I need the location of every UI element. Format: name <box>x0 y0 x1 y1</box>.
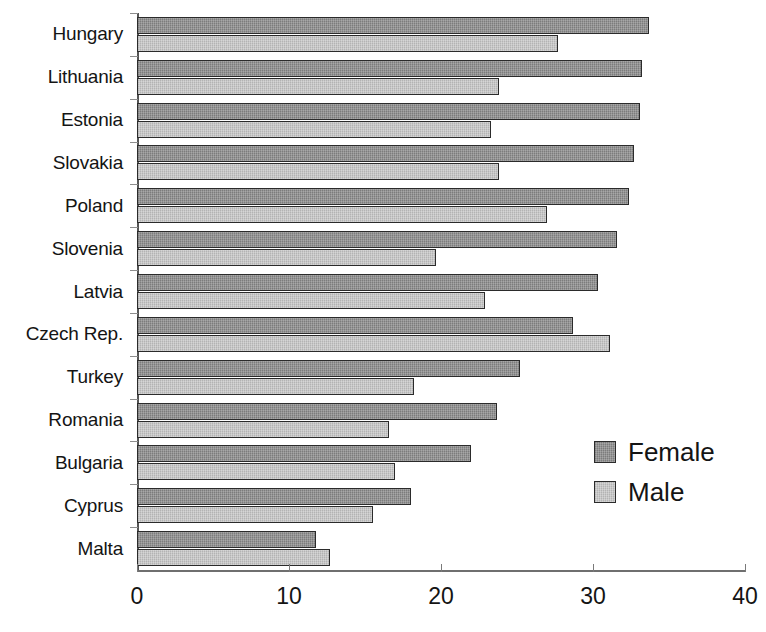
bar-male <box>137 421 389 438</box>
y-axis-tick <box>130 13 138 14</box>
bar-male <box>137 549 330 566</box>
bar-female <box>137 531 316 548</box>
x-axis-tick-label: 10 <box>276 585 302 608</box>
x-axis-tick <box>441 564 442 572</box>
category-label: Cyprus <box>0 496 123 515</box>
legend-label-male: Male <box>628 479 684 505</box>
y-axis-tick <box>130 313 138 314</box>
bar-male <box>137 35 558 52</box>
category-label: Czech Rep. <box>0 324 123 343</box>
category-label: Malta <box>0 539 123 558</box>
bar-group <box>137 99 745 142</box>
y-axis-tick <box>130 270 138 271</box>
category-label: Lithuania <box>0 67 123 86</box>
bar-group <box>137 142 745 185</box>
bar-male <box>137 506 373 523</box>
y-axis-tick <box>130 527 138 528</box>
bar-group <box>137 313 745 356</box>
bar-female <box>137 231 617 248</box>
y-axis-tick <box>130 142 138 143</box>
bar-male <box>137 121 491 138</box>
bar-group <box>137 184 745 227</box>
bar-female <box>137 403 497 420</box>
legend-item-female: Female <box>594 432 766 472</box>
legend-swatch-male-icon <box>594 481 616 503</box>
y-axis-tick <box>130 484 138 485</box>
bar-female <box>137 360 520 377</box>
x-axis-tick-label: 40 <box>732 585 758 608</box>
bar-female <box>137 274 598 291</box>
bar-group <box>137 270 745 313</box>
bar-chart: HungaryLithuaniaEstoniaSlovakiaPolandSlo… <box>0 0 766 632</box>
bar-female <box>137 145 634 162</box>
x-axis-tick <box>289 564 290 572</box>
bar-female <box>137 60 642 77</box>
bar-male <box>137 335 610 352</box>
bar-female <box>137 317 573 334</box>
legend-item-male: Male <box>594 472 766 512</box>
bar-male <box>137 292 485 309</box>
bar-female <box>137 188 629 205</box>
y-axis-tick <box>130 99 138 100</box>
bar-female <box>137 17 649 34</box>
x-axis-tick-label: 20 <box>428 585 454 608</box>
y-axis-tick <box>130 184 138 185</box>
category-label: Bulgaria <box>0 453 123 472</box>
x-axis-tick <box>745 564 746 572</box>
category-label: Slovenia <box>0 239 123 258</box>
bar-male <box>137 78 499 95</box>
legend-swatch-female-icon <box>594 441 616 463</box>
y-axis-tick <box>130 441 138 442</box>
x-axis-tick-label: 30 <box>580 585 606 608</box>
bar-female <box>137 103 640 120</box>
x-axis-tick <box>137 564 138 572</box>
y-axis-tick <box>130 399 138 400</box>
category-label: Romania <box>0 410 123 429</box>
bar-male <box>137 378 414 395</box>
category-axis-labels: HungaryLithuaniaEstoniaSlovakiaPolandSlo… <box>0 13 131 570</box>
x-axis-tick-label: 0 <box>131 585 144 608</box>
bar-male <box>137 206 547 223</box>
bar-group <box>137 56 745 99</box>
category-label: Turkey <box>0 367 123 386</box>
x-axis-tick <box>593 564 594 572</box>
bar-group <box>137 13 745 56</box>
bar-group <box>137 356 745 399</box>
y-axis-tick <box>130 356 138 357</box>
y-axis-tick <box>130 56 138 57</box>
bar-male <box>137 249 436 266</box>
bar-female <box>137 445 471 462</box>
category-label: Poland <box>0 196 123 215</box>
bar-male <box>137 463 395 480</box>
bar-female <box>137 488 411 505</box>
y-axis-tick <box>130 227 138 228</box>
category-label: Slovakia <box>0 153 123 172</box>
category-label: Estonia <box>0 110 123 129</box>
legend: Female Male <box>594 432 766 512</box>
legend-label-female: Female <box>628 439 715 465</box>
bar-group <box>137 227 745 270</box>
category-label: Hungary <box>0 24 123 43</box>
bar-male <box>137 163 499 180</box>
category-label: Latvia <box>0 282 123 301</box>
